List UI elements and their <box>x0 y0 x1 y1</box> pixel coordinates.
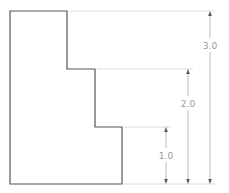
dimension-label-1: 1.0 <box>159 151 174 161</box>
dimension-label-2: 2.0 <box>181 99 196 109</box>
extension-lines <box>69 11 215 184</box>
arrowhead-down-icon <box>164 179 168 184</box>
arrowhead-up-icon <box>208 11 212 16</box>
technical-drawing: 1.0 2.0 3.0 <box>0 0 229 193</box>
arrowhead-up-icon <box>186 69 190 74</box>
dimension-label-3: 3.0 <box>203 41 218 51</box>
arrowhead-down-icon <box>186 179 190 184</box>
stepped-profile-outline <box>10 11 122 184</box>
arrowhead-up-icon <box>164 127 168 132</box>
arrowhead-down-icon <box>208 179 212 184</box>
